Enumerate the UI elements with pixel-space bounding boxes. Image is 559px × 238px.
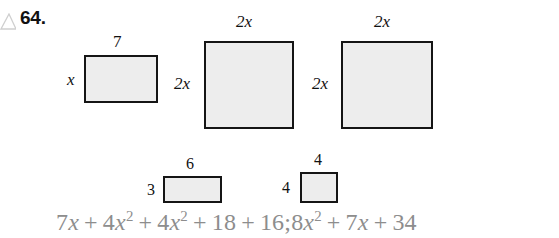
answer-operator: + bbox=[369, 209, 393, 235]
figure-rect-7-by-x-top-label: 7 bbox=[113, 33, 122, 50]
answer-number: 7 bbox=[56, 209, 68, 235]
answer-variable: x bbox=[358, 209, 369, 235]
answer-operator: + bbox=[236, 209, 260, 235]
figure-square-4-by-4-top-label: 4 bbox=[314, 152, 322, 168]
figure-square-2x-first bbox=[204, 41, 294, 129]
figure-square-2x-second bbox=[341, 41, 433, 129]
answer-number: 8 bbox=[291, 209, 303, 235]
answer-operator: + bbox=[322, 209, 346, 235]
figure-rect-6-by-3-left-label: 3 bbox=[147, 182, 155, 198]
answer-variable: x bbox=[303, 209, 314, 235]
answer-number: 7 bbox=[346, 209, 358, 235]
figure-square-2x-first-top-label: 2x bbox=[236, 13, 252, 30]
answer-number: 18 bbox=[212, 209, 236, 235]
figure-rect-7-by-x bbox=[84, 55, 158, 103]
answer-number: 4 bbox=[103, 209, 115, 235]
answer-operator: + bbox=[188, 209, 212, 235]
answer-exponent: 2 bbox=[314, 208, 322, 224]
triangle-outline-icon bbox=[0, 13, 16, 30]
figure-rect-6-by-3-top-label: 6 bbox=[186, 156, 194, 172]
answer-expression: 7x+4x2+4x2+18+16;8x2+7x+34 bbox=[56, 209, 559, 236]
answer-exponent: 2 bbox=[126, 208, 134, 224]
figure-square-2x-first-left-label: 2x bbox=[174, 75, 190, 92]
answer-number: 4 bbox=[157, 209, 169, 235]
figure-rect-6-by-3 bbox=[163, 176, 222, 203]
figure-square-4-by-4 bbox=[300, 172, 338, 203]
answer-operator: + bbox=[134, 209, 158, 235]
answer-number: 34 bbox=[392, 209, 416, 235]
answer-variable: x bbox=[115, 209, 126, 235]
answer-number: 16; bbox=[260, 209, 291, 235]
figure-square-2x-second-left-label: 2x bbox=[312, 75, 328, 92]
figure-square-4-by-4-left-label: 4 bbox=[282, 180, 290, 196]
figure-square-2x-second-top-label: 2x bbox=[374, 13, 390, 30]
figure-rect-7-by-x-left-label: x bbox=[67, 71, 75, 88]
answer-operator: + bbox=[79, 209, 103, 235]
worksheet-page: 64. 7 x 2x 2x 2x 2x 6 3 4 4 7x+4x2+4x2+1… bbox=[0, 0, 559, 238]
answer-variable: x bbox=[169, 209, 180, 235]
answer-exponent: 2 bbox=[180, 208, 188, 224]
answer-variable: x bbox=[68, 209, 79, 235]
exercise-number: 64. bbox=[20, 7, 46, 29]
